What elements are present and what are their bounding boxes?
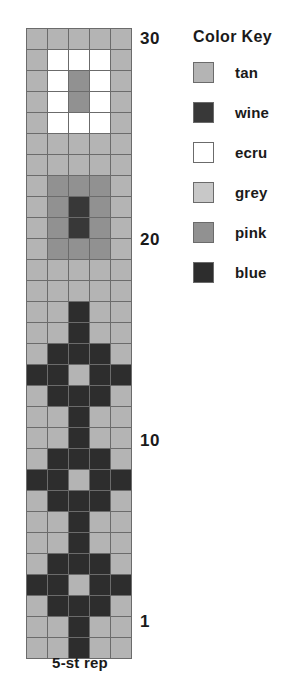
chart-row [27, 365, 132, 386]
chart-row [27, 323, 132, 344]
chart-cell [27, 512, 48, 533]
chart-cell [48, 365, 69, 386]
chart-row [27, 470, 132, 491]
legend-label-tan: tan [235, 64, 258, 81]
chart-cell [27, 50, 48, 71]
chart-cell [90, 575, 111, 596]
chart-cell [90, 260, 111, 281]
chart-cell [69, 134, 90, 155]
chart-row [27, 449, 132, 470]
chart-cell [90, 50, 111, 71]
chart-cell [69, 407, 90, 428]
chart-cell [27, 407, 48, 428]
chart-cell [27, 344, 48, 365]
chart-row [27, 428, 132, 449]
chart-row [27, 407, 132, 428]
chart-cell [27, 491, 48, 512]
chart-cell [48, 197, 69, 218]
row-number-label-1: 1 [140, 612, 150, 632]
chart-cell [90, 134, 111, 155]
chart-cell [111, 92, 132, 113]
chart-row [27, 50, 132, 71]
chart-cell [111, 281, 132, 302]
chart-cell [27, 197, 48, 218]
chart-cell [69, 491, 90, 512]
chart-cell [69, 50, 90, 71]
chart-cell [48, 617, 69, 638]
chart-cell [69, 29, 90, 50]
chart-row [27, 533, 132, 554]
chart-row [27, 512, 132, 533]
chart-cell [27, 617, 48, 638]
chart-row [27, 302, 132, 323]
chart-cell [27, 428, 48, 449]
colorwork-chart-figure: 3020101 5-st rep Color Key tanwineecrugr… [0, 0, 300, 698]
chart-cell [48, 470, 69, 491]
chart-cell [27, 92, 48, 113]
chart-cell [69, 239, 90, 260]
chart-cell [48, 302, 69, 323]
chart-row [27, 596, 132, 617]
chart-cell [111, 71, 132, 92]
chart-cell [48, 491, 69, 512]
chart-cell [48, 554, 69, 575]
chart-cell [48, 344, 69, 365]
chart-cell [48, 92, 69, 113]
chart-cell [90, 71, 111, 92]
chart-cell [69, 533, 90, 554]
chart-cell [90, 533, 111, 554]
chart-cell [90, 155, 111, 176]
chart-cell [48, 281, 69, 302]
chart-cell [69, 512, 90, 533]
chart-grid [26, 28, 132, 659]
chart-row [27, 218, 132, 239]
chart-row [27, 71, 132, 92]
chart-cell [111, 134, 132, 155]
chart-cell [90, 491, 111, 512]
chart-cell [111, 260, 132, 281]
legend-swatch-grey [193, 182, 214, 203]
legend-entries: tanwineecrugreypinkblue [193, 62, 300, 283]
chart-cell [111, 596, 132, 617]
chart-cell [27, 575, 48, 596]
chart-cell [90, 344, 111, 365]
chart-cell [90, 617, 111, 638]
chart-cell [111, 554, 132, 575]
chart-cell [48, 596, 69, 617]
chart-cell [69, 323, 90, 344]
chart-cell [69, 449, 90, 470]
legend-entry-pink: pink [193, 222, 300, 243]
chart-cell [111, 407, 132, 428]
chart-cell [27, 281, 48, 302]
chart-cell [48, 386, 69, 407]
chart-caption: 5-st rep [0, 654, 160, 671]
chart-row [27, 176, 132, 197]
chart-cell [90, 92, 111, 113]
chart-cell [27, 239, 48, 260]
chart-cell [48, 260, 69, 281]
chart-cell [27, 323, 48, 344]
legend-swatch-wine [193, 102, 214, 123]
chart-cell [69, 344, 90, 365]
chart-row [27, 386, 132, 407]
chart-row [27, 29, 132, 50]
chart-cell [69, 197, 90, 218]
legend-swatch-blue [193, 262, 214, 283]
color-key-legend: Color Key tanwineecrugreypinkblue [193, 28, 300, 302]
legend-swatch-tan [193, 62, 214, 83]
chart-cell [111, 386, 132, 407]
chart-row [27, 92, 132, 113]
chart-row [27, 134, 132, 155]
chart-row [27, 197, 132, 218]
chart-cell [27, 176, 48, 197]
chart-cell [90, 239, 111, 260]
chart-cell [27, 29, 48, 50]
chart-cell [111, 302, 132, 323]
chart-row [27, 281, 132, 302]
chart-cell [27, 302, 48, 323]
chart-cell [27, 113, 48, 134]
chart-cell [27, 554, 48, 575]
chart-cell [69, 260, 90, 281]
chart-row [27, 617, 132, 638]
chart-cell [111, 470, 132, 491]
